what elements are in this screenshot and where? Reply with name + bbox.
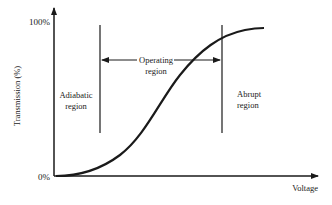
x-axis-label: Voltage — [292, 183, 318, 193]
adiabatic-region-label-line1: Adiabatic — [59, 90, 92, 100]
y-axis-label: Transmission (%) — [12, 66, 22, 127]
abrupt-region-label-line2: region — [237, 100, 259, 110]
transmission-curve — [56, 28, 264, 176]
operating-region-label-line2: region — [145, 66, 167, 76]
adiabatic-region-label-line2: region — [65, 101, 87, 111]
abrupt-region-label-line1: Abrupt — [237, 89, 262, 99]
transmission-voltage-diagram: 100% 0% Transmission (%) Voltage Adiabat… — [0, 0, 332, 205]
y-tick-0: 0% — [38, 172, 51, 182]
operating-region-label-line1: Operating — [139, 55, 174, 65]
y-tick-100: 100% — [29, 17, 51, 27]
